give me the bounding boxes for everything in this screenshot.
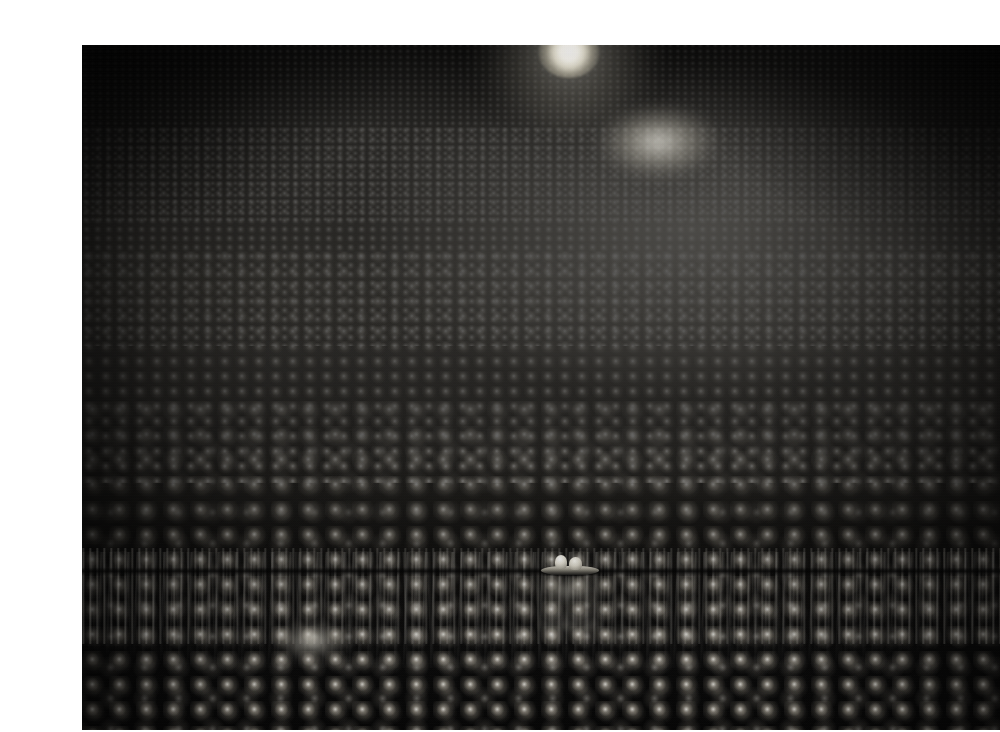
pmt-layer-far: [82, 127, 1000, 346]
boat-reflection: [542, 596, 598, 630]
ceiling-lamp-secondary-glow: [598, 105, 718, 179]
detector-photograph: Interior of a vast cylindrical undergrou…: [82, 45, 1000, 730]
inflatable-boat: [539, 553, 601, 579]
ceiling-lamp-primary: [538, 45, 600, 78]
worker-right: [569, 557, 582, 570]
page-root: Interior of a vast cylindrical undergrou…: [0, 0, 1000, 732]
pmt-layer-mid: [82, 251, 1000, 484]
photograph-description: Interior of a vast cylindrical undergrou…: [82, 45, 83, 46]
pmt-layer-dome: [82, 45, 1000, 223]
ceiling-lamp-primary-halo: [474, 45, 664, 128]
worker-left: [555, 555, 567, 569]
